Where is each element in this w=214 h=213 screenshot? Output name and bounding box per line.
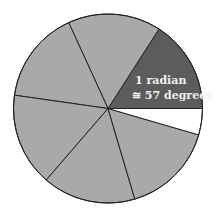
radian-diagram: 1 radian ≅ 57 degrees xyxy=(0,0,214,213)
circle-sectors xyxy=(14,14,203,203)
label-degrees: ≅ 57 degrees xyxy=(132,89,212,102)
label-radian: 1 radian xyxy=(135,74,186,87)
